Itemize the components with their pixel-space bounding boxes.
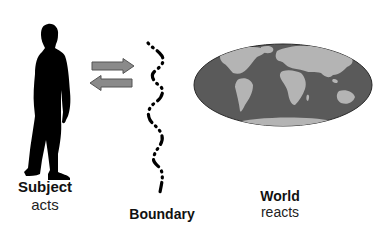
arrow-right [91, 58, 135, 74]
subject-sublabel: acts [12, 196, 78, 213]
boundary-line [140, 40, 175, 195]
subject-figure [18, 20, 74, 182]
arrow-right-icon [91, 58, 135, 74]
world-sublabel: reacts [245, 204, 315, 220]
arrow-left-icon [89, 75, 133, 91]
world-globe [193, 43, 373, 127]
world-map-globe-icon [193, 43, 373, 127]
boundary-label: Boundary [122, 206, 202, 222]
boundary-wavy-line [140, 40, 175, 195]
arrow-left [89, 75, 133, 91]
person-silhouette-icon [18, 20, 74, 182]
subject-label: Subject [12, 178, 78, 195]
world-label: World [245, 188, 315, 204]
